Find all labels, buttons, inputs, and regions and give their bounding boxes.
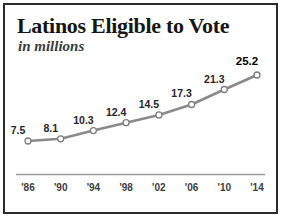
x-axis-tick-label: '98 — [119, 182, 133, 193]
data-point-marker — [189, 102, 195, 108]
x-axis-tick-label: '86 — [21, 182, 35, 193]
data-point-marker — [156, 112, 162, 118]
data-point-label: 17.3 — [171, 87, 191, 99]
data-point-label: 14.5 — [139, 98, 159, 110]
data-point-marker — [90, 128, 96, 134]
data-point-label: 12.4 — [106, 106, 126, 118]
chart-card: Latinos Eligible to Vote in millions 7.5… — [0, 0, 281, 217]
x-axis-tick-label: '94 — [87, 182, 101, 193]
data-point-label: 10.3 — [73, 114, 93, 126]
x-axis-tick-label: '06 — [185, 182, 199, 193]
data-point-label: 7.5 — [11, 124, 26, 136]
x-axis-tick-label: '90 — [54, 182, 68, 193]
x-axis-tick-label: '10 — [218, 182, 232, 193]
data-point-marker — [25, 138, 31, 144]
data-point-marker — [221, 87, 227, 93]
data-point-marker — [254, 72, 260, 78]
data-point-marker — [123, 120, 129, 126]
data-point-label: 21.3 — [204, 73, 224, 85]
data-point-marker — [58, 136, 64, 142]
data-point-label: 8.1 — [43, 122, 58, 134]
x-axis-tick-label: '02 — [152, 182, 166, 193]
x-axis-tick-label: '14 — [250, 182, 264, 193]
data-point-label: 25.2 — [236, 55, 258, 67]
